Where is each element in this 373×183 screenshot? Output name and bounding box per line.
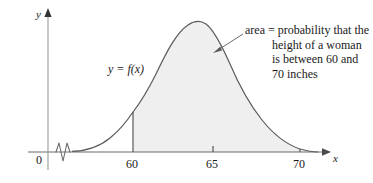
x-axis-label: x (333, 152, 338, 164)
x-tick-label-65: 65 (206, 157, 218, 172)
x-tick-label-70: 70 (293, 157, 305, 172)
x-tick-label-60: 60 (126, 157, 138, 172)
annotation-line-3: is between 60 and (272, 52, 358, 67)
curve-function-label: y = f(x) (108, 62, 144, 77)
annotation-line-1: area = probability that the (245, 23, 369, 38)
y-axis-arrowhead (44, 8, 51, 17)
probability-density-figure: y x 0 60 65 70 y = f(x) area = probabili… (0, 0, 373, 183)
x-axis-arrowhead (322, 148, 331, 156)
annotation-leader-line (218, 34, 243, 50)
origin-label: 0 (36, 153, 42, 168)
annotation-line-4: 70 inches (272, 67, 318, 82)
y-axis-label: y (36, 8, 41, 20)
annotation-line-2: height of a woman (272, 38, 362, 53)
